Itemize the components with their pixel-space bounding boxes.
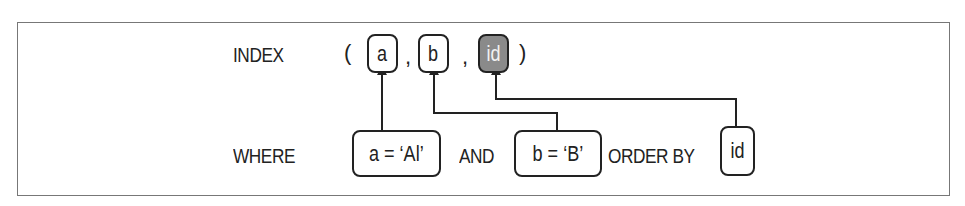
condition-a: a = ‘Al’ [352, 130, 441, 177]
order-by-keyword: ORDER BY [608, 145, 695, 166]
where-keyword: WHERE [233, 145, 295, 166]
condition-b-label: b = ‘B’ [533, 143, 584, 165]
separator-1: , [405, 46, 411, 68]
index-column-a: a [367, 34, 398, 73]
open-paren: ( [344, 42, 351, 64]
index-keyword: INDEX [233, 44, 284, 65]
condition-b: b = ‘B’ [514, 130, 602, 177]
connector-arrows [0, 0, 965, 206]
index-column-a-label: a [377, 43, 387, 65]
index-column-b: b [418, 34, 449, 73]
index-column-id: id [478, 34, 509, 73]
order-by-column-id: id [720, 126, 755, 176]
separator-2: , [462, 46, 468, 68]
close-paren: ) [519, 42, 526, 64]
and-keyword: AND [459, 145, 494, 166]
index-column-id-label: id [486, 43, 500, 65]
order-by-column-id-label: id [730, 140, 744, 162]
arrow-id [496, 74, 736, 126]
index-column-b-label: b [428, 43, 438, 65]
condition-a-label: a = ‘Al’ [369, 143, 424, 165]
